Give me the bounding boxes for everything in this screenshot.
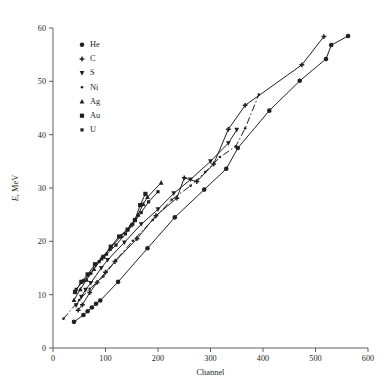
data-point — [72, 320, 77, 325]
data-point — [98, 298, 103, 303]
data-point — [202, 187, 207, 192]
data-point — [105, 253, 108, 256]
data-point — [182, 175, 187, 180]
data-point — [81, 313, 86, 318]
data-point — [329, 43, 334, 48]
data-point — [324, 57, 329, 62]
legend-label-au: Au — [90, 111, 101, 120]
data-point — [131, 223, 134, 226]
data-point — [88, 288, 91, 291]
data-point — [94, 301, 99, 306]
data-point — [346, 34, 351, 39]
data-point — [159, 180, 164, 185]
y-tick-label: 60 — [38, 24, 46, 33]
legend-label-he: He — [90, 40, 100, 49]
data-point — [138, 203, 142, 207]
data-point — [90, 305, 95, 310]
series-line-c — [78, 37, 324, 311]
data-point — [145, 246, 150, 251]
data-point — [151, 219, 154, 222]
data-point — [102, 275, 105, 278]
data-point — [244, 127, 247, 130]
x-tick-label: 600 — [362, 354, 374, 363]
y-axis-title: E, MeV — [11, 175, 20, 203]
x-tick-label: 0 — [51, 354, 55, 363]
legend-item-s[interactable]: S — [80, 68, 95, 77]
data-point — [98, 260, 101, 263]
y-tick-label: 20 — [38, 237, 46, 246]
legend-marker-c — [80, 57, 85, 62]
legend-marker-he — [80, 42, 85, 47]
plot-area: 01002003004005006000102030405060ChannelE… — [11, 24, 374, 377]
data-point — [297, 79, 302, 84]
y-tick-label: 10 — [38, 291, 46, 300]
calibration-chart-figure: 01002003004005006000102030405060ChannelE… — [0, 0, 386, 390]
series-au — [73, 192, 148, 294]
chart-svg: 01002003004005006000102030405060ChannelE… — [0, 0, 386, 390]
data-point — [267, 108, 272, 113]
y-tick-label: 0 — [42, 344, 46, 353]
data-point — [124, 232, 127, 235]
data-point — [140, 211, 143, 214]
legend-label-u: U — [90, 125, 96, 134]
legend-marker-ag — [80, 99, 85, 104]
data-point — [147, 200, 150, 203]
data-point — [143, 192, 147, 196]
x-tick-label: 300 — [204, 354, 216, 363]
x-tick-label: 100 — [99, 354, 111, 363]
legend-item-c[interactable]: C — [80, 54, 96, 63]
data-point — [115, 259, 118, 262]
x-tick-label: 400 — [257, 354, 269, 363]
y-tick-label: 50 — [38, 77, 46, 86]
data-point — [258, 93, 261, 96]
data-point — [132, 240, 135, 243]
legend-item-au[interactable]: Au — [80, 111, 101, 120]
series-line-au — [75, 194, 145, 292]
legend-marker-ni — [81, 86, 84, 89]
data-point — [75, 288, 78, 291]
x-tick-label: 500 — [309, 354, 321, 363]
legend-marker-au — [80, 114, 84, 118]
x-axis-title: Channel — [197, 368, 226, 377]
data-point — [117, 234, 121, 238]
legend-item-he[interactable]: He — [80, 40, 100, 49]
legend-item-ag[interactable]: Ag — [80, 97, 101, 106]
y-tick-label: 30 — [38, 184, 46, 193]
chart-legend: HeCSNiAgAuU — [80, 40, 101, 134]
x-tick-label: 200 — [152, 354, 164, 363]
data-point — [89, 272, 92, 275]
data-point — [219, 156, 222, 159]
data-point — [78, 299, 81, 302]
legend-marker-s — [80, 71, 85, 76]
series-he — [72, 34, 351, 324]
y-tick-label: 40 — [38, 131, 46, 140]
series-line-he — [74, 36, 348, 322]
data-point — [156, 190, 159, 193]
data-point — [224, 167, 229, 172]
data-point — [85, 309, 90, 314]
legend-label-s: S — [90, 68, 95, 77]
data-point — [114, 243, 117, 246]
legend-label-c: C — [90, 54, 96, 63]
data-point — [173, 215, 178, 220]
legend-marker-u — [80, 128, 83, 131]
data-point — [234, 145, 237, 148]
series-c — [76, 34, 326, 312]
y-axis-title-unit: , MeV — [11, 175, 20, 196]
data-point — [62, 317, 65, 320]
data-point — [82, 279, 85, 282]
data-point — [204, 171, 207, 174]
legend-item-ni[interactable]: Ni — [81, 83, 99, 92]
legend-label-ni: Ni — [90, 83, 99, 92]
data-point — [170, 198, 173, 201]
data-point — [116, 280, 121, 285]
legend-label-ag: Ag — [90, 97, 101, 106]
data-point — [189, 185, 192, 188]
legend-item-u[interactable]: U — [80, 125, 96, 134]
